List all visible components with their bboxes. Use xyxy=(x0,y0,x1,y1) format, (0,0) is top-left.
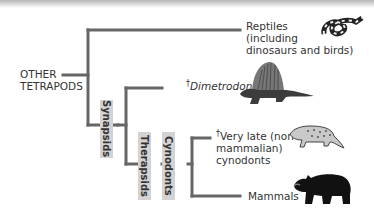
root-label: OTHER TETRAPODS xyxy=(20,68,83,92)
taxon-late-cynodonts-line: mammalian) xyxy=(216,142,298,154)
taxon-late-cynodonts: †Very late (non- mammalian) cynodonts xyxy=(216,130,298,166)
taxon-reptiles-line: dinosaurs and birds) xyxy=(246,44,353,56)
dimetrodon-icon xyxy=(238,60,318,105)
root-label-line-2: TETRAPODS xyxy=(20,80,83,92)
cynodonts-label: Cynodonts xyxy=(162,132,175,200)
taxon-late-cynodonts-line: cynodonts xyxy=(216,154,298,166)
therapsids-label: Therapsids xyxy=(138,132,151,200)
synapsids-label: Synapsids xyxy=(100,100,113,158)
cynodont-icon xyxy=(288,122,346,150)
taxon-late-cynodonts-line: Very late (non- xyxy=(220,130,298,142)
bear-icon xyxy=(292,170,354,206)
snake-icon xyxy=(318,12,366,42)
root-label-line-1: OTHER xyxy=(20,68,83,80)
